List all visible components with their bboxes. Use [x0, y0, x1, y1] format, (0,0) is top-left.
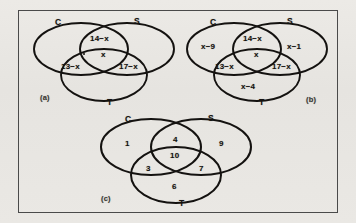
panel-tag-a: (a) [40, 94, 50, 102]
set-label-t-b: T [259, 98, 264, 107]
set-label-s-b: S [287, 17, 293, 26]
region-c-center: 10 [170, 152, 179, 160]
set-label-t-a: T [107, 98, 112, 107]
region-b-center: x [254, 51, 259, 59]
region-b-c-only: x−9 [201, 43, 215, 51]
set-label-s-a: S [134, 17, 140, 26]
venn-panel-c: C S T 1 4 9 10 3 7 6 (c) [81, 109, 271, 212]
set-label-t-c: T [179, 199, 184, 208]
region-c-s-and-t-only: 7 [199, 165, 204, 173]
set-label-c-c: C [125, 115, 131, 124]
panel-tag-c: (c) [101, 195, 111, 203]
region-a-center: x [101, 51, 106, 59]
region-b-c-and-s-only: 14−x [243, 35, 262, 43]
region-a-c-and-s-only: 14−x [90, 35, 109, 43]
region-a-c-and-t-only: 13−x [61, 63, 80, 71]
region-c-s-only: 9 [219, 140, 224, 148]
region-b-c-and-t-only: 13−x [215, 63, 234, 71]
region-c-c-and-s-only: 4 [173, 136, 178, 144]
region-c-t-only: 6 [172, 183, 177, 191]
panel-tag-b: (b) [306, 96, 316, 104]
region-b-s-and-t-only: 17−x [272, 63, 291, 71]
region-c-c-only: 1 [125, 140, 130, 148]
region-b-t-only: x−4 [241, 83, 255, 91]
set-label-c-b: C [210, 18, 216, 27]
venn-panel-b: C S T x−9 14−x x−1 x 13−x 17−x x−4 (b) [179, 13, 335, 111]
venn-panel-a: C S T 14−x x 13−x 17−x (a) [23, 13, 179, 111]
region-b-s-only: x−1 [287, 43, 301, 51]
region-a-s-and-t-only: 17−x [119, 63, 138, 71]
set-label-c-a: C [55, 18, 61, 27]
region-c-c-and-t-only: 3 [146, 165, 151, 173]
set-label-s-c: S [208, 114, 214, 123]
figure-frame: C S T 14−x x 13−x 17−x (a) C S T x−9 14−… [18, 10, 338, 213]
